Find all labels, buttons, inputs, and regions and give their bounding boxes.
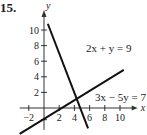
y-axis-arrow-icon (42, 10, 47, 17)
graph: xy−22468102468102x + y = 93x − 5y = 7 (0, 0, 147, 135)
x-tick-label: 8 (102, 112, 107, 123)
equation-label-2: 3x − 5y = 7 (95, 91, 146, 103)
x-axis-label: x (140, 102, 146, 113)
x-tick-label: −2 (23, 112, 34, 123)
y-tick-label: 4 (34, 71, 39, 82)
x-tick-label: 6 (87, 112, 92, 123)
y-tick-label: 6 (34, 56, 39, 67)
y-axis-label: y (45, 0, 51, 11)
equation-label-1: 2x + y = 9 (86, 42, 132, 54)
y-tick-label: 2 (34, 87, 39, 98)
y-tick-label: 10 (29, 25, 39, 36)
x-tick-label: 2 (57, 112, 62, 123)
x-tick-label: 4 (72, 112, 77, 123)
x-axis-arrow-icon (132, 106, 138, 111)
y-tick-label: 8 (34, 40, 39, 51)
x-tick-label: 10 (115, 112, 125, 123)
